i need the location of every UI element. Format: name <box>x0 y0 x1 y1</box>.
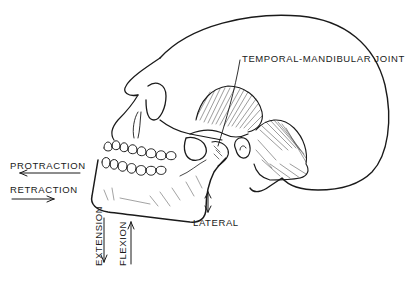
flexion-label: FLEXION <box>118 221 128 266</box>
mandible <box>92 158 226 222</box>
retraction-label: RETRACTION <box>10 185 78 195</box>
tmj-label: TEMPORAL-MANDIBULAR JOINT <box>242 54 405 64</box>
lateral-label: LATERAL <box>193 218 239 228</box>
coronoid-notch <box>184 137 206 160</box>
cranium-outline <box>160 15 389 191</box>
retraction-arrow <box>12 196 54 202</box>
upper-teeth <box>104 141 176 160</box>
nasal-opening <box>133 112 141 138</box>
extension-label: EXTENSION <box>94 206 104 266</box>
condyle <box>212 141 228 166</box>
occipital-hatching <box>256 120 306 178</box>
forehead <box>125 58 160 95</box>
lower-teeth <box>102 158 166 176</box>
mandible-shading <box>104 176 202 206</box>
orbit <box>146 83 166 120</box>
flexion-arrow <box>128 222 134 264</box>
ramus <box>180 160 206 176</box>
external-auditory-meatus <box>235 138 250 158</box>
protraction-label: PROTRACTION <box>10 161 86 171</box>
nasal-bone <box>112 95 138 140</box>
